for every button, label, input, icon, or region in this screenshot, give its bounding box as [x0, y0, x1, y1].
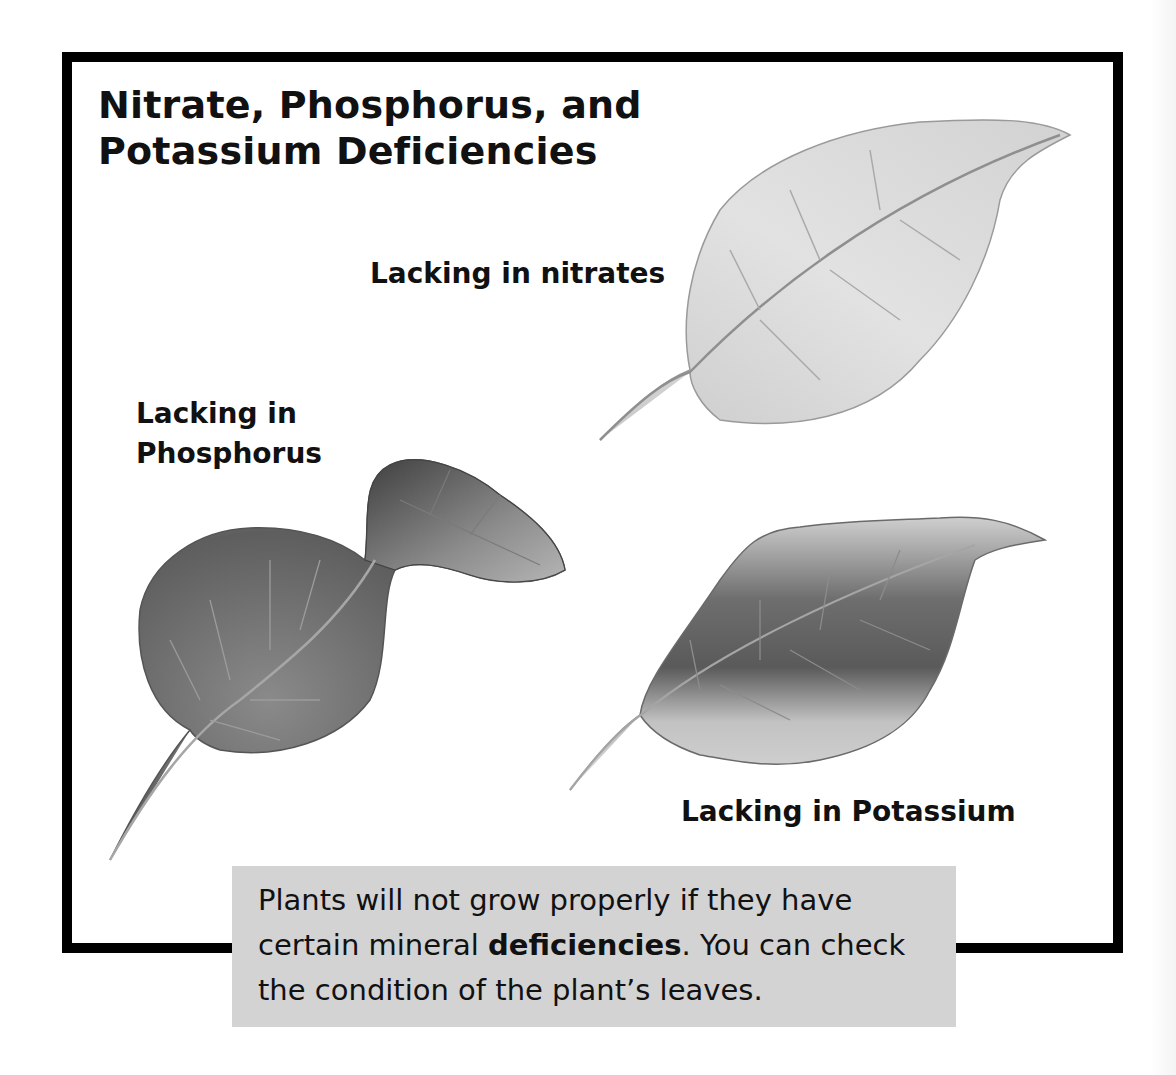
leaf-nitrates — [600, 120, 1070, 440]
label-phosphorus: Lacking in Phosphorus — [136, 394, 322, 474]
label-potassium: Lacking in Potassium — [681, 792, 1016, 832]
label-nitrates: Lacking in nitrates — [370, 254, 665, 294]
leaf-potassium — [570, 517, 1045, 790]
leaf-phosphorus — [110, 460, 565, 860]
caption-box: Plants will not grow properly if they ha… — [232, 866, 956, 1027]
caption-keyword: deficiencies — [488, 928, 681, 962]
